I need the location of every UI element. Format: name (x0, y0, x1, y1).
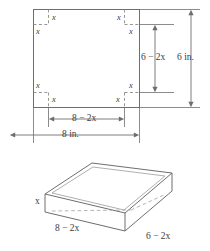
box-3d-outline (45, 163, 172, 231)
geometry-figure: x x x x x x x x 6 − 2x 6 in. 8 − 2x 8 in… (0, 0, 210, 251)
flat-sheet-rectangle (34, 10, 140, 108)
corner-cut-bottom-right (125, 93, 140, 108)
box-3d-inner-rim (52, 167, 165, 210)
corner-label-tr-vertical: x (117, 13, 121, 22)
box-3d-hidden-edges (52, 194, 166, 211)
corner-cut-top-left (34, 10, 49, 25)
corner-cut-bottom-left (34, 93, 49, 108)
corner-label-tl-vertical: x (52, 13, 56, 22)
dimension-label-inner-width: 8 − 2x (72, 114, 96, 124)
box-label-width: 6 − 2x (146, 232, 170, 242)
corner-label-bl-vertical: x (52, 95, 56, 104)
figure-canvas (0, 0, 210, 251)
dimension-label-inner-height: 6 − 2x (141, 53, 165, 63)
corner-cut-top-right (125, 10, 140, 25)
corner-label-bl-horizontal: x (36, 81, 40, 90)
corner-label-tl-horizontal: x (36, 27, 40, 36)
corner-label-tr-horizontal: x (129, 27, 133, 36)
dimension-label-outer-width: 8 in. (62, 130, 79, 140)
dimension-label-outer-height: 6 in. (177, 53, 194, 63)
corner-label-br-horizontal: x (129, 81, 133, 90)
box-label-height: x (35, 197, 40, 207)
box-label-length: 8 − 2x (55, 224, 79, 234)
corner-label-br-vertical: x (116, 95, 120, 104)
